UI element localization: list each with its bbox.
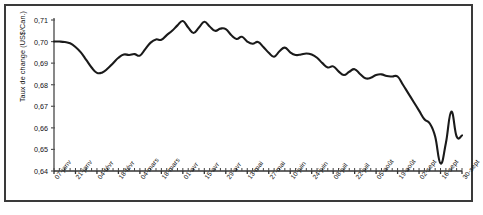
- line-chart: [0, 0, 483, 215]
- y-tick-label: 0,69: [18, 59, 48, 68]
- y-tick-label: 0,71: [18, 16, 48, 25]
- y-tick-label: 0,68: [18, 81, 48, 90]
- y-tick-label: 0,64: [18, 167, 48, 176]
- y-tick-label: 0,65: [18, 145, 48, 154]
- y-tick-label: 0,70: [18, 38, 48, 47]
- exchange-rate-line: [54, 21, 462, 164]
- y-tick-label: 0,67: [18, 102, 48, 111]
- y-tick-label: 0,66: [18, 124, 48, 133]
